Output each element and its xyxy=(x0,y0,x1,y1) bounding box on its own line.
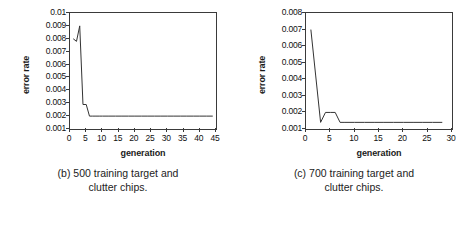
c-y-tick-2: 0.006 xyxy=(282,41,302,50)
b-y-tick-4: 0.006 xyxy=(46,59,66,68)
c-y-tick-mark-1 xyxy=(302,29,306,30)
c-x-tick-mark-2 xyxy=(354,128,355,132)
c-x-tick-mark-0 xyxy=(305,128,306,132)
b-y-tick-9: 0.001 xyxy=(46,124,66,133)
c-y-tick-3: 0.005 xyxy=(282,57,302,66)
b-y-tick-0: 0.01 xyxy=(50,8,66,17)
b-x-tick-2: 10 xyxy=(97,134,106,143)
c-y-tick-0: 0.008 xyxy=(282,8,302,17)
chart-c-x-axis-title: generation xyxy=(305,148,453,158)
chart-c-y-tick-labels: 0.0080.0070.0060.0050.0040.0030.0020.001 xyxy=(266,12,302,128)
b-y-tick-mark-1 xyxy=(66,25,70,26)
chart-c-data-line xyxy=(306,13,452,129)
c-y-tick-5: 0.003 xyxy=(282,91,302,100)
b-x-tick-3: 15 xyxy=(113,134,122,143)
c-x-tick-mark-6 xyxy=(451,128,452,132)
b-x-tick-8: 40 xyxy=(194,134,203,143)
c-y-tick-1: 0.007 xyxy=(282,24,302,33)
b-x-tick-4: 20 xyxy=(129,134,138,143)
c-y-tick-mark-2 xyxy=(302,45,306,46)
chart-c-x-tick-labels: 051015202530 xyxy=(305,134,453,146)
c-series-0 xyxy=(311,30,442,123)
c-x-tick-0: 0 xyxy=(303,134,308,143)
b-y-tick-mark-7 xyxy=(66,102,70,103)
chart-b: error rate 0.010.0090.0080.0070.0060.005… xyxy=(0,0,236,152)
b-y-tick-7: 0.003 xyxy=(46,98,66,107)
b-y-tick-mark-8 xyxy=(66,115,70,116)
b-y-tick-6: 0.004 xyxy=(46,85,66,94)
c-y-tick-6: 0.002 xyxy=(282,107,302,116)
b-x-tick-mark-1 xyxy=(85,128,86,132)
chart-b-data-line xyxy=(70,13,216,129)
b-x-tick-6: 30 xyxy=(162,134,171,143)
c-x-tick-6: 30 xyxy=(446,134,455,143)
c-x-tick-mark-3 xyxy=(378,128,379,132)
chart-b-y-tick-labels: 0.010.0090.0080.0070.0060.0050.0040.0030… xyxy=(30,12,66,128)
c-x-tick-2: 10 xyxy=(349,134,358,143)
caption-c-line-1: (c) 700 training target and xyxy=(236,166,472,180)
c-x-tick-4: 20 xyxy=(398,134,407,143)
caption-b-line-2: clutter chips. xyxy=(0,180,236,194)
c-y-tick-mark-6 xyxy=(302,111,306,112)
b-x-tick-mark-6 xyxy=(166,128,167,132)
b-x-tick-0: 0 xyxy=(67,134,72,143)
figure-panel-row: error rate 0.010.0090.0080.0070.0060.005… xyxy=(0,0,472,225)
caption-b: (b) 500 training target and clutter chip… xyxy=(0,166,236,194)
b-y-tick-3: 0.007 xyxy=(46,46,66,55)
caption-c-line-2: clutter chips. xyxy=(236,180,472,194)
b-y-tick-mark-6 xyxy=(66,89,70,90)
b-x-tick-mark-3 xyxy=(118,128,119,132)
c-x-tick-mark-1 xyxy=(329,128,330,132)
c-x-tick-3: 15 xyxy=(373,134,382,143)
chart-b-x-axis-title: generation xyxy=(69,148,217,158)
b-y-tick-1: 0.009 xyxy=(46,21,66,30)
b-series-0 xyxy=(73,26,213,116)
b-y-tick-5: 0.005 xyxy=(46,72,66,81)
b-y-tick-mark-2 xyxy=(66,38,70,39)
b-x-tick-mark-7 xyxy=(183,128,184,132)
b-x-tick-mark-4 xyxy=(134,128,135,132)
c-y-tick-mark-4 xyxy=(302,78,306,79)
b-x-tick-7: 35 xyxy=(178,134,187,143)
b-x-tick-1: 5 xyxy=(83,134,88,143)
b-x-tick-mark-8 xyxy=(199,128,200,132)
c-y-tick-4: 0.004 xyxy=(282,74,302,83)
b-x-tick-mark-2 xyxy=(101,128,102,132)
c-x-tick-5: 25 xyxy=(422,134,431,143)
caption-b-line-1: (b) 500 training target and xyxy=(0,166,236,180)
chart-b-x-tick-labels: 051015202530354045 xyxy=(69,134,217,146)
b-y-tick-mark-4 xyxy=(66,64,70,65)
chart-b-plot-area xyxy=(69,12,217,130)
c-y-tick-mark-0 xyxy=(302,12,306,13)
b-x-tick-mark-5 xyxy=(150,128,151,132)
c-y-tick-mark-3 xyxy=(302,62,306,63)
caption-c: (c) 700 training target and clutter chip… xyxy=(236,166,472,194)
chart-c: error rate 0.0080.0070.0060.0050.0040.00… xyxy=(236,0,472,152)
figure-panel-c: error rate 0.0080.0070.0060.0050.0040.00… xyxy=(236,0,472,225)
b-x-tick-mark-9 xyxy=(215,128,216,132)
c-y-tick-7: 0.001 xyxy=(282,124,302,133)
b-x-tick-mark-0 xyxy=(69,128,70,132)
c-y-tick-mark-5 xyxy=(302,95,306,96)
figure-panel-b: error rate 0.010.0090.0080.0070.0060.005… xyxy=(0,0,236,225)
b-y-tick-mark-3 xyxy=(66,51,70,52)
b-y-tick-mark-0 xyxy=(66,12,70,13)
b-y-tick-8: 0.002 xyxy=(46,111,66,120)
c-x-tick-mark-5 xyxy=(427,128,428,132)
c-x-tick-1: 5 xyxy=(327,134,332,143)
chart-c-plot-area xyxy=(305,12,453,130)
b-x-tick-9: 45 xyxy=(210,134,219,143)
b-x-tick-5: 25 xyxy=(146,134,155,143)
b-y-tick-2: 0.008 xyxy=(46,34,66,43)
b-y-tick-mark-5 xyxy=(66,76,70,77)
c-x-tick-mark-4 xyxy=(402,128,403,132)
